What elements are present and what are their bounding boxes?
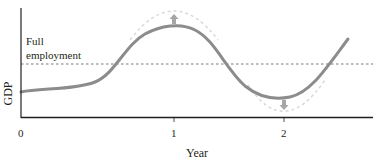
y-axis-label: GDP <box>1 81 16 105</box>
x-axis-label: Year <box>186 147 208 159</box>
down-arrow-icon <box>280 100 289 110</box>
x-tick-label-1: 1 <box>171 128 177 139</box>
gdp-curve <box>21 26 348 99</box>
full-employment-label-line1: Full <box>26 36 44 47</box>
gdp-chart <box>0 0 377 164</box>
x-tick-label-0: 0 <box>18 128 24 139</box>
up-arrow-icon <box>170 14 179 24</box>
x-tick-label-2: 2 <box>281 128 287 139</box>
full-employment-label-line2: employment <box>26 50 81 61</box>
